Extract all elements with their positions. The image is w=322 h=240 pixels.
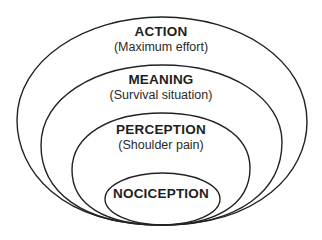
meaning-subtitle: (Survival situation) bbox=[0, 88, 322, 102]
nociception-title: NOCICEPTION bbox=[0, 186, 322, 201]
perception-subtitle: (Shoulder pain) bbox=[0, 138, 322, 152]
action-title: ACTION bbox=[0, 24, 322, 39]
action-subtitle: (Maximum effort) bbox=[0, 40, 322, 54]
perception-title: PERCEPTION bbox=[0, 122, 322, 137]
meaning-title: MEANING bbox=[0, 72, 322, 87]
